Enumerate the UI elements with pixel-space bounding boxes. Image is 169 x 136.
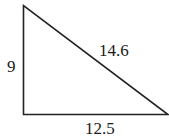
horizontal-side-label: 12.5 bbox=[85, 119, 115, 136]
triangle-diagram: 9 14.6 12.5 bbox=[0, 0, 169, 136]
right-triangle bbox=[24, 6, 169, 115]
hypotenuse-label: 14.6 bbox=[99, 41, 129, 60]
vertical-side-label: 9 bbox=[7, 57, 16, 76]
